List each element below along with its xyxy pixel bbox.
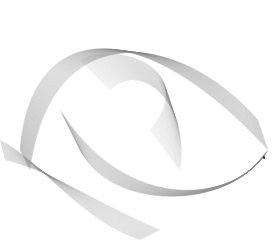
- line-art-mesh: [0, 0, 278, 248]
- dark-dot: [263, 156, 265, 159]
